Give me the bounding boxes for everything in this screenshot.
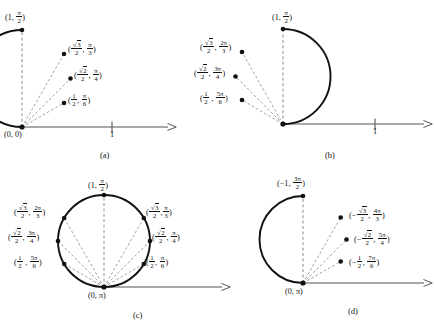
point-label-a-2: (√32, π3) [68, 40, 96, 56]
point-label-d-2: (−√32, 4π3) [349, 206, 385, 222]
data-point-c-6 [56, 239, 61, 244]
panel-c [56, 193, 222, 290]
data-point-a-4 [62, 101, 67, 106]
data-point-d-4 [338, 259, 343, 264]
radial-line-b-2 [242, 52, 283, 124]
point-label-b-4: (12 , 5π6) [200, 90, 228, 105]
data-point-b-4 [240, 98, 245, 103]
data-point-a-1 [20, 28, 25, 33]
panel-d [260, 194, 425, 286]
axis-tick-label-a: 1 [110, 131, 114, 139]
point-label-d-4: (−12, 7π6) [349, 254, 379, 269]
circle-arc-d [260, 196, 304, 283]
pole-label-a: (0, 0) [4, 131, 22, 139]
data-point-b-2 [240, 50, 245, 55]
point-label-d-3: (−√22, 5π4) [354, 230, 390, 246]
point-label-b-2: (√32, 2π3) [200, 38, 231, 54]
point-label-c-6: (√22, 3π4) [8, 228, 39, 244]
data-point-b-1 [281, 27, 286, 32]
axis-tick-label-b: 1 [373, 128, 377, 136]
point-label-c-1: (1, π2) [88, 177, 108, 192]
point-label-b-1: (1, π2) [272, 9, 292, 24]
radial-line-d-2 [303, 218, 341, 284]
point-label-c-3: (√22, π4) [152, 228, 180, 244]
radial-line-a-2 [22, 54, 64, 127]
radial-line-d-4 [303, 262, 341, 284]
data-point-a-2 [62, 52, 67, 57]
circle-arc-b [283, 29, 331, 124]
panel-b [233, 27, 424, 130]
radial-line-c-4 [104, 264, 144, 287]
data-point-c-7 [62, 262, 67, 267]
radial-line-a-4 [22, 103, 64, 127]
pole-label-c: (0, π) [88, 292, 106, 300]
circle-arc-a [0, 30, 22, 127]
point-label-c-4: (12, π6) [146, 254, 168, 269]
point-label-a-1: (1, π2) [5, 9, 25, 24]
pole-point-c [101, 284, 106, 289]
radial-line-c-5 [64, 218, 104, 287]
pole-point-b [280, 121, 285, 126]
panel-caption-d: (d) [348, 306, 358, 316]
point-label-a-3: (√22, π4) [74, 66, 102, 82]
data-point-b-3 [233, 74, 238, 79]
radial-line-c-2 [104, 218, 144, 287]
panel-caption-a: (a) [100, 150, 109, 160]
data-point-c-5 [62, 216, 67, 221]
panel-caption-c: (c) [133, 310, 142, 320]
point-label-a-4: (12, π6) [68, 92, 90, 107]
point-label-c-7: (12 , 5π6) [14, 254, 42, 269]
data-point-d-3 [344, 237, 349, 242]
panel-caption-b: (b) [325, 150, 335, 160]
radial-line-c-7 [64, 264, 104, 287]
data-point-d-2 [338, 215, 343, 220]
point-label-c-2: (√32,π3) [146, 203, 172, 219]
point-label-c-5: (√32, 2π3) [14, 203, 45, 219]
pole-point-d [300, 280, 305, 285]
data-point-a-3 [68, 76, 73, 81]
pole-label-d: (0, π) [285, 288, 303, 296]
point-label-d-1: (−1, 3π2) [277, 175, 305, 190]
pole-point-a [19, 124, 24, 129]
data-point-c-1 [102, 193, 107, 198]
point-label-b-3: (√22, 3π4) [194, 64, 225, 80]
data-point-d-1 [301, 194, 306, 199]
